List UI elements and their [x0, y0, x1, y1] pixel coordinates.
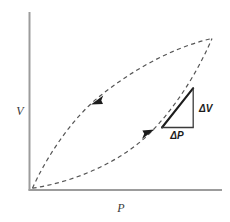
pv-hysteresis-chart: V P ΔV ΔP [0, 0, 230, 222]
x-axis-label: P [116, 201, 125, 215]
delta-v-label: ΔV [198, 103, 214, 114]
delta-p-label: ΔP [169, 130, 184, 141]
hysteresis-figure: V P ΔV ΔP [0, 0, 230, 222]
plot-background [0, 0, 230, 222]
